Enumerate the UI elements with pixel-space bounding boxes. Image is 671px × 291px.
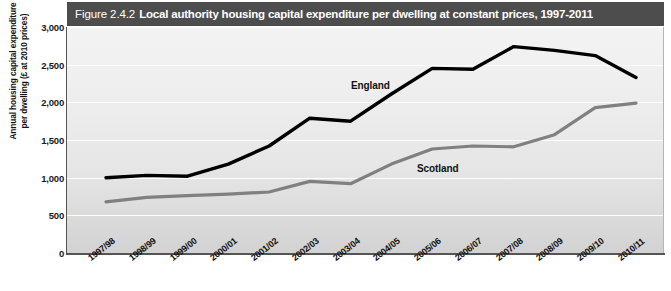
figure-title: Local authority housing capital expendit… xyxy=(139,8,593,20)
x-axis-ticks: 1997/981998/991999/002000/012001/022002/… xyxy=(0,255,671,291)
y-axis-title: Annual housing capital expenditure per d… xyxy=(0,0,38,176)
england-line xyxy=(106,47,636,178)
figure-header-bar: Figure 2.4.2 Local authority housing cap… xyxy=(67,2,664,26)
series-label-scotland: Scotland xyxy=(417,163,458,174)
y-axis-line xyxy=(66,27,67,254)
figure-number: Figure 2.4.2 xyxy=(75,8,135,20)
scotland-line xyxy=(106,103,636,202)
y-axis-title-line1: Annual housing capital expenditure xyxy=(8,2,18,139)
figure-container: Figure 2.4.2 Local authority housing cap… xyxy=(0,0,671,291)
y-tick-label: 500 xyxy=(2,210,64,221)
series-label-england: England xyxy=(351,80,390,91)
plot-area xyxy=(67,27,664,253)
series-lines xyxy=(67,27,664,253)
y-axis-title-line2: per dwelling (£ at 2010 prices) xyxy=(19,14,29,129)
